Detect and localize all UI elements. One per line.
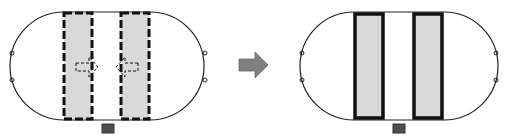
dashed-rect-left	[64, 13, 92, 119]
solid-rect-right	[414, 14, 442, 118]
after-panel	[300, 12, 498, 133]
capsule-outline	[300, 12, 498, 120]
capsule-outline	[10, 12, 204, 120]
marker-block	[102, 124, 114, 133]
solid-rect-left	[355, 14, 383, 118]
port-circle	[203, 51, 207, 55]
diagram-canvas	[0, 0, 506, 138]
port-circle	[203, 78, 207, 82]
before-panel	[10, 12, 207, 133]
marker-block	[393, 124, 405, 133]
dashed-rect-right	[121, 13, 149, 119]
right-arrow-icon	[239, 52, 268, 78]
